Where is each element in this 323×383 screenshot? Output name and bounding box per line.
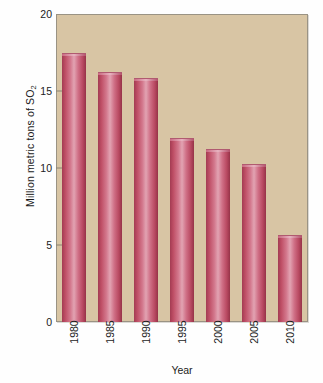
x-tick-label: 2000 — [212, 312, 224, 352]
x-axis-ticks: 1980198519901995200020052010 — [56, 322, 308, 366]
bar — [170, 138, 194, 322]
x-tick-label: 1990 — [140, 312, 152, 352]
y-tick-label: 20 — [28, 8, 52, 20]
bar — [134, 78, 158, 322]
y-tick-label: 5 — [28, 239, 52, 251]
bar — [62, 53, 86, 322]
chart-figure: Million metric tons of SO2 05101520 1980… — [0, 0, 323, 383]
y-tick-mark — [56, 91, 62, 92]
y-tick-mark — [56, 168, 62, 169]
x-tick-label: 1995 — [176, 312, 188, 352]
y-tick-label: 0 — [28, 316, 52, 328]
x-tick-label: 2005 — [248, 312, 260, 352]
x-tick-label: 1985 — [104, 312, 116, 352]
bar — [206, 149, 230, 322]
x-axis-title: Year — [56, 364, 308, 376]
y-tick-label: 15 — [28, 85, 52, 97]
bar — [278, 235, 302, 322]
x-tick-label: 2010 — [284, 312, 296, 352]
bar — [242, 164, 266, 322]
bar — [98, 72, 122, 322]
y-tick-label: 10 — [28, 162, 52, 174]
y-tick-mark — [56, 245, 62, 246]
y-axis-ticks: 05101520 — [24, 0, 52, 383]
x-tick-label: 1980 — [68, 312, 80, 352]
bars-layer — [56, 14, 308, 322]
